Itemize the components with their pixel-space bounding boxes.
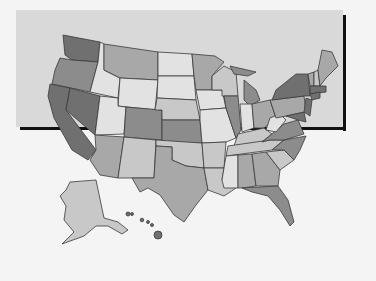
state-WY xyxy=(118,78,158,110)
state-HI xyxy=(126,212,162,239)
state-SD xyxy=(157,76,196,100)
state-CO xyxy=(124,107,162,140)
state-NM xyxy=(118,137,156,178)
state-ND xyxy=(158,52,194,76)
us-choropleth-map xyxy=(0,0,376,281)
state-IN xyxy=(240,104,254,132)
state-FL xyxy=(242,186,294,226)
state-NE xyxy=(155,98,200,120)
state-KS xyxy=(162,120,202,143)
state-IA xyxy=(196,90,226,110)
state-AK xyxy=(60,180,128,244)
state-AR xyxy=(202,142,226,168)
